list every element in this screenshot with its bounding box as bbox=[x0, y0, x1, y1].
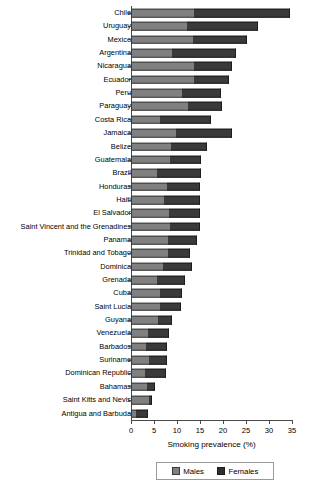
bar-segment-females bbox=[169, 209, 200, 218]
y-axis-tick bbox=[128, 200, 131, 201]
y-axis-tick bbox=[128, 226, 131, 227]
bar-row: Haiti bbox=[0, 193, 310, 207]
bar-segment-males bbox=[131, 35, 193, 44]
category-label: Uruguay bbox=[103, 22, 131, 30]
bar-row: Mexico bbox=[0, 33, 310, 47]
stacked-bar bbox=[131, 222, 200, 231]
bar-segment-females bbox=[136, 409, 148, 418]
category-label: Dominica bbox=[100, 263, 131, 271]
category-label: Saint Kitts and Nevis bbox=[63, 396, 131, 404]
y-axis-tick bbox=[128, 26, 131, 27]
bar-segment-females bbox=[194, 9, 290, 18]
x-axis-tick bbox=[200, 420, 201, 424]
stacked-bar bbox=[131, 182, 200, 191]
bar-row: Jamaica bbox=[0, 126, 310, 140]
bar-segment-males bbox=[131, 156, 170, 165]
x-axis-tick bbox=[292, 420, 293, 424]
y-axis-tick bbox=[128, 66, 131, 67]
y-axis-tick bbox=[128, 79, 131, 80]
females-swatch-icon bbox=[217, 467, 225, 475]
bar-segment-males bbox=[131, 369, 145, 378]
x-axis-tick-label: 5 bbox=[152, 426, 156, 435]
category-label: Jamaica bbox=[103, 129, 131, 137]
bar-segment-males bbox=[131, 383, 147, 392]
x-axis-tick bbox=[131, 420, 132, 424]
y-axis-tick bbox=[128, 400, 131, 401]
y-axis-tick bbox=[128, 133, 131, 134]
category-label: El Salvador bbox=[93, 209, 131, 217]
bar-segment-females bbox=[182, 89, 221, 98]
bar-segment-males bbox=[131, 249, 168, 258]
bar-segment-males bbox=[131, 102, 188, 111]
bar-row: Suriname bbox=[0, 353, 310, 367]
category-label: Grenada bbox=[102, 276, 131, 284]
y-axis-tick bbox=[128, 213, 131, 214]
category-label: Barbados bbox=[99, 343, 131, 351]
y-axis-tick bbox=[128, 413, 131, 414]
bar-segment-males bbox=[131, 169, 157, 178]
bar-segment-females bbox=[193, 35, 247, 44]
bar-segment-males bbox=[131, 236, 168, 245]
bar-row: Saint Lucia bbox=[0, 300, 310, 314]
bar-segment-males bbox=[131, 62, 194, 71]
bar-segment-females bbox=[157, 169, 201, 178]
x-axis-tick-label: 20 bbox=[219, 426, 227, 435]
bar-row: Cuba bbox=[0, 286, 310, 300]
bar-segment-males bbox=[131, 356, 149, 365]
category-label: Honduras bbox=[99, 183, 131, 191]
bar-segment-males bbox=[131, 9, 194, 18]
stacked-bar bbox=[131, 102, 222, 111]
plot-area: ChileUruguayMexicoArgentinaNicaraguaEcua… bbox=[0, 0, 310, 420]
bar-row: Trinidad and Tobago bbox=[0, 246, 310, 260]
bar-row: Barbados bbox=[0, 340, 310, 354]
category-label: Panama bbox=[103, 236, 131, 244]
bar-segment-males bbox=[131, 89, 182, 98]
bar-row: Belize bbox=[0, 140, 310, 154]
bar-segment-females bbox=[167, 182, 200, 191]
x-axis-tick bbox=[269, 420, 270, 424]
bar-segment-males bbox=[131, 142, 171, 151]
stacked-bar bbox=[131, 396, 152, 405]
stacked-bar bbox=[131, 196, 200, 205]
bar-segment-females bbox=[164, 196, 200, 205]
y-axis-tick bbox=[128, 320, 131, 321]
bar-row: Chile bbox=[0, 6, 310, 20]
stacked-bar bbox=[131, 289, 182, 298]
y-axis-tick bbox=[128, 186, 131, 187]
y-axis-tick bbox=[128, 13, 131, 14]
stacked-bar bbox=[131, 249, 190, 258]
stacked-bar bbox=[131, 302, 181, 311]
legend-item-males: Males bbox=[172, 467, 204, 476]
stacked-bar bbox=[131, 89, 221, 98]
bar-segment-males bbox=[131, 276, 157, 285]
y-axis-tick bbox=[128, 106, 131, 107]
y-axis-tick bbox=[128, 53, 131, 54]
bar-segment-males bbox=[131, 75, 194, 84]
bar-segment-females bbox=[146, 342, 167, 351]
bar-segment-females bbox=[168, 236, 197, 245]
bar-segment-females bbox=[172, 49, 236, 58]
category-label: Costa Rica bbox=[95, 116, 131, 124]
bar-row: Bahamas bbox=[0, 380, 310, 394]
bar-segment-females bbox=[158, 316, 172, 325]
x-axis-tick-label: 15 bbox=[196, 426, 204, 435]
stacked-bar bbox=[131, 142, 207, 151]
bar-segment-females bbox=[145, 369, 166, 378]
bar-row: Uruguay bbox=[0, 19, 310, 33]
stacked-bar bbox=[131, 409, 148, 418]
bar-segment-females bbox=[149, 356, 167, 365]
bar-segment-males bbox=[131, 302, 160, 311]
y-axis-tick bbox=[128, 306, 131, 307]
x-axis-tick-label: 35 bbox=[288, 426, 296, 435]
y-axis-tick bbox=[128, 160, 131, 161]
category-label: Antigua and Barbuda bbox=[62, 410, 131, 418]
y-axis-tick bbox=[128, 386, 131, 387]
bar-row: Panama bbox=[0, 233, 310, 247]
bar-segment-females bbox=[163, 262, 192, 271]
bar-segment-females bbox=[170, 222, 200, 231]
legend-label-females: Females bbox=[228, 467, 258, 476]
y-axis-tick bbox=[128, 240, 131, 241]
y-axis-tick bbox=[128, 119, 131, 120]
category-label: Paraguay bbox=[99, 102, 131, 110]
x-axis-tick-label: 25 bbox=[242, 426, 250, 435]
